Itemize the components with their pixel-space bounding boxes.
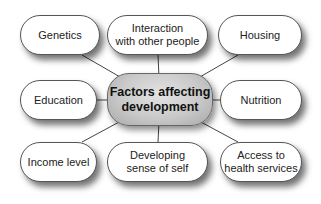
node-income: Income level [20,142,97,182]
node-genetics: Genetics [20,15,100,55]
node-interaction: Interaction with other people [107,15,208,55]
node-nutrition: Nutrition [220,80,302,120]
node-education: Education [20,80,97,120]
node-housing: Housing [218,15,302,55]
node-self: Developing sense of self [107,142,208,182]
center-node: Factors affecting development [107,73,213,126]
node-health: Access to health services [220,142,302,182]
